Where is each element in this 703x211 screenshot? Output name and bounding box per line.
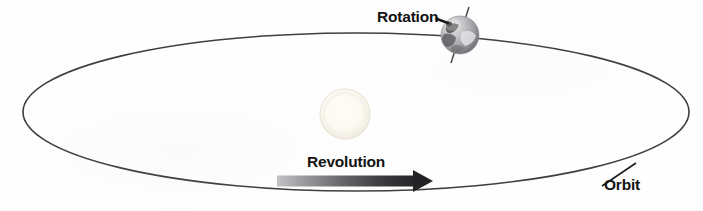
sun bbox=[320, 89, 371, 140]
label-orbit: Orbit bbox=[604, 176, 640, 194]
label-revolution: Revolution bbox=[307, 153, 385, 171]
diagram-canvas: Rotation Revolution Orbit bbox=[0, 0, 703, 211]
orbit-diagram bbox=[0, 0, 703, 211]
label-rotation: Rotation bbox=[377, 8, 438, 26]
revolution-arrow bbox=[277, 170, 433, 192]
